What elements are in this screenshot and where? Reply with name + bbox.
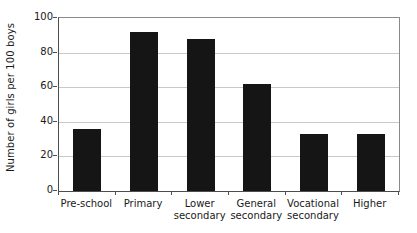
x-axis-tick-marks xyxy=(58,191,399,196)
x-axis-tick-mark xyxy=(115,191,116,195)
y-axis-tick-mark xyxy=(53,121,57,122)
bar-chart-figure: Number of girls per 100 boys 02040608010… xyxy=(0,0,417,233)
x-axis-category-label: Generalsecondary xyxy=(230,198,282,222)
x-axis-category-labels: Pre-schoolPrimaryLowersecondaryGeneralse… xyxy=(58,198,399,232)
x-axis-tick-mark xyxy=(58,191,59,195)
x-axis-category-label-line1: Primary xyxy=(124,198,163,209)
x-axis-category-label-line2: secondary xyxy=(287,210,339,222)
y-axis-tick-label: 20 xyxy=(25,150,53,160)
x-axis-tick-mark xyxy=(228,191,229,195)
x-axis-category-label-line1: Pre-school xyxy=(61,198,113,209)
x-axis-category-label-line1: Vocational xyxy=(287,198,339,209)
y-axis-tick-label: 100 xyxy=(25,12,53,22)
x-axis-tick-mark xyxy=(398,191,399,195)
bar xyxy=(187,39,215,191)
y-axis-tick-label: 40 xyxy=(25,116,53,126)
x-axis-category-label-line1: Lower xyxy=(185,198,215,209)
y-axis-tick-mark xyxy=(53,190,57,191)
x-axis-category-label: Vocationalsecondary xyxy=(287,198,339,222)
x-axis-tick-mark xyxy=(285,191,286,195)
y-axis-tick-mark xyxy=(53,155,57,156)
bar-series xyxy=(59,18,399,191)
y-axis-tick-labels: 020406080100 xyxy=(20,0,53,233)
bar xyxy=(73,129,101,191)
x-axis-category-label-line1: Higher xyxy=(353,198,386,209)
y-axis-title: Number of girls per 100 boys xyxy=(0,0,22,195)
y-axis-title-text: Number of girls per 100 boys xyxy=(6,23,17,172)
y-axis-tick-mark xyxy=(53,52,57,53)
x-axis-category-label-line2: secondary xyxy=(174,210,226,222)
bar xyxy=(357,134,385,191)
x-axis-category-label: Lowersecondary xyxy=(174,198,226,222)
y-axis-tick-mark xyxy=(53,17,57,18)
x-axis-category-label: Primary xyxy=(124,198,163,210)
bar xyxy=(300,134,328,191)
y-axis-tick-label: 80 xyxy=(25,47,53,57)
y-axis-tick-label: 60 xyxy=(25,81,53,91)
x-axis-category-label: Pre-school xyxy=(61,198,113,210)
bar xyxy=(130,32,158,191)
y-axis-tick-mark xyxy=(53,86,57,87)
y-axis-tick-label: 0 xyxy=(25,185,53,195)
x-axis-category-label-line2: secondary xyxy=(230,210,282,222)
x-axis-category-label: Higher xyxy=(353,198,386,210)
x-axis-tick-mark xyxy=(171,191,172,195)
x-axis-tick-mark xyxy=(341,191,342,195)
x-axis-category-label-line1: General xyxy=(237,198,276,209)
plot-area xyxy=(58,17,400,192)
bar xyxy=(243,84,271,191)
